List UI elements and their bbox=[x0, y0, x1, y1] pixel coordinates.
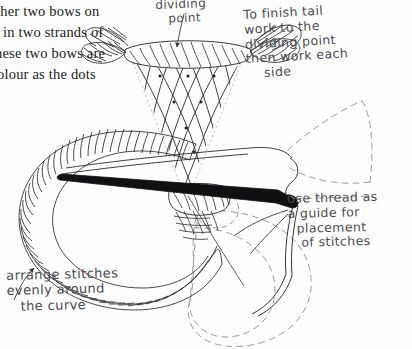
annotation-arrange-stitches: arrange stitches evenly around the curve bbox=[6, 265, 119, 314]
annotation-finish-tail: To finish tail work to the dividing poin… bbox=[243, 2, 349, 81]
printed-line-1: ther two bows on bbox=[0, 4, 99, 19]
leader-thread-guide bbox=[234, 210, 288, 254]
printed-line-3: hese two bows are bbox=[0, 46, 105, 61]
dashed-tail bbox=[288, 101, 372, 183]
needle-upper-outline bbox=[62, 147, 292, 174]
printed-line-4: olour as the dots bbox=[0, 67, 96, 82]
annotation-thread-guide: use thread as a guide for placement of s… bbox=[287, 190, 379, 251]
printed-line-2: in two strands of bbox=[3, 25, 103, 40]
annotation-dividing-point: dividing point bbox=[155, 0, 207, 26]
scanned-page: ther two bows on in two strands of hese … bbox=[0, 0, 412, 349]
